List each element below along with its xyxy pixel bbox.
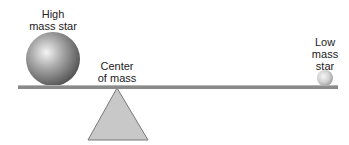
fulcrum-triangle-icon xyxy=(88,88,148,140)
label-line: star xyxy=(305,60,345,72)
label-line: Low xyxy=(305,36,345,48)
lever-beam xyxy=(18,85,338,89)
label-line: High xyxy=(22,8,84,20)
label-line: mass xyxy=(305,48,345,60)
high-mass-star-label: High mass star xyxy=(22,8,84,32)
low-mass-star-icon xyxy=(317,70,333,86)
center-of-mass-label: Center of mass xyxy=(92,60,142,84)
low-mass-star-label: Low mass star xyxy=(305,36,345,72)
label-line: mass star xyxy=(22,20,84,32)
label-line: of mass xyxy=(92,72,142,84)
label-line: Center xyxy=(92,60,142,72)
high-mass-star-icon xyxy=(26,32,80,86)
